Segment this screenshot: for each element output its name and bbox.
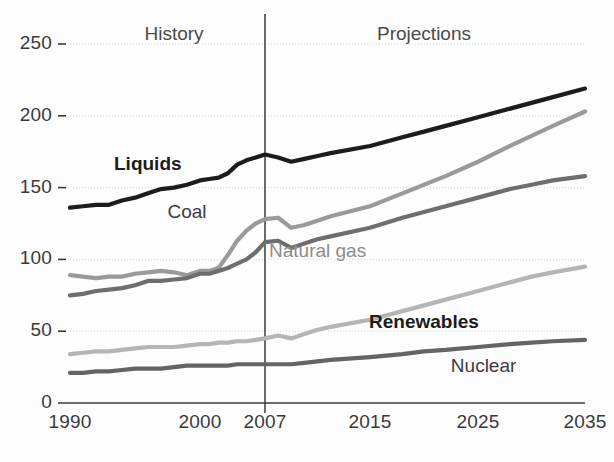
x-axis-label-2025: 2025 <box>443 411 513 433</box>
series-label-renewables: Renewables <box>369 311 479 333</box>
y-axis-label-0: 0 <box>0 391 52 413</box>
y-axis-label-50: 50 <box>0 319 52 341</box>
annotation-history: History <box>145 23 204 45</box>
series-label-natural-gas: Natural gas <box>269 240 366 262</box>
x-axis-label-1990: 1990 <box>35 411 105 433</box>
y-axis-label-150: 150 <box>0 176 52 198</box>
annotation-projections: Projections <box>377 23 471 45</box>
y-axis-label-200: 200 <box>0 104 52 126</box>
plot-area <box>0 0 614 462</box>
x-axis-label-2000: 2000 <box>165 411 235 433</box>
x-axis-label-2015: 2015 <box>335 411 405 433</box>
y-axis-label-100: 100 <box>0 247 52 269</box>
series-label-coal: Coal <box>168 201 207 223</box>
y-axis-label-250: 250 <box>0 32 52 54</box>
series-label-nuclear: Nuclear <box>451 355 516 377</box>
x-axis-label-2035: 2035 <box>550 411 614 433</box>
x-axis-label-2007: 2007 <box>230 411 300 433</box>
energy-consumption-line-chart: 050100150200250199020002007201520252035H… <box>0 0 614 462</box>
series-label-liquids: Liquids <box>114 153 182 175</box>
